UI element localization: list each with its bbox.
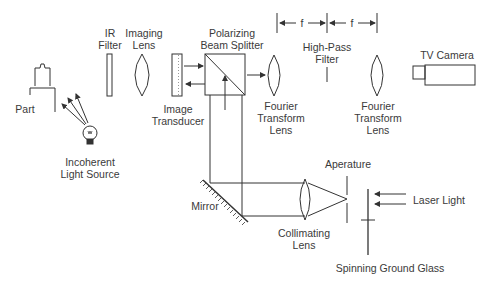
bulb-shape (83, 126, 97, 144)
optical-diagram: Part Incoherent Light Source IR Filter I… (0, 0, 500, 285)
label-part: Part (15, 103, 34, 115)
label-tv-camera: TV Camera (420, 49, 474, 61)
label-laser-light: Laser Light (413, 194, 465, 206)
label-high-pass-filter: High-Pass Filter (303, 41, 351, 65)
label-mirror: Mirror (191, 200, 218, 212)
label-ground-glass: Spinning Ground Glass (336, 262, 445, 274)
label-fourier-lens-1: Fourier Transform Lens (257, 100, 304, 136)
label-ir-filter: IR Filter (98, 27, 121, 51)
label-image-transducer: Image Transducer (152, 103, 205, 127)
label-light-source: Incoherent Light Source (61, 156, 120, 180)
label-beam-splitter: Polarizing Beam Splitter (200, 27, 263, 51)
label-aperture: Aperature (325, 158, 371, 170)
label-focal-1: f (301, 17, 304, 29)
label-imaging-lens: Imaging Lens (125, 27, 162, 51)
label-fourier-lens-2: Fourier Transform Lens (354, 100, 401, 136)
label-focal-2: f (351, 17, 354, 29)
label-collimating-lens: Collimating Lens (278, 227, 330, 251)
